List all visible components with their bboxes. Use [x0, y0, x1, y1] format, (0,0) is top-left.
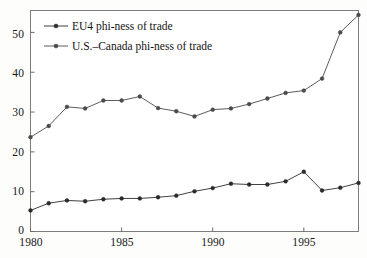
- data-point-1982: [65, 199, 69, 203]
- data-point-1996: [320, 77, 324, 81]
- legend-sample-marker-1: [54, 44, 58, 48]
- data-point-1985: [120, 197, 124, 201]
- data-point-1992: [247, 183, 251, 187]
- data-point-1986: [138, 95, 142, 99]
- legend-label-us-canada: U.S.–Canada phi-ness of trade: [72, 40, 212, 52]
- data-point-1986: [138, 197, 142, 201]
- ytick-label-10: 10: [2, 185, 24, 197]
- data-point-1987: [156, 195, 160, 199]
- chart-figure: 50 40 30 20 10 0 1980 1985 1990 1995 EU4…: [0, 0, 367, 258]
- data-point-1998: [357, 181, 361, 185]
- data-point-1995: [302, 89, 306, 93]
- xtick-label-1990: 1990: [192, 236, 234, 248]
- ytick-label-30: 30: [2, 106, 24, 118]
- data-point-1990: [211, 186, 215, 190]
- data-point-1993: [265, 183, 269, 187]
- ytick-label-0: 0: [2, 224, 24, 236]
- data-point-1980: [29, 209, 33, 213]
- data-point-1981: [47, 201, 51, 205]
- legend-sample-marker-0: [54, 24, 58, 28]
- chart-plot-area: [0, 0, 367, 258]
- data-point-1991: [229, 107, 233, 111]
- xtick-label-1985: 1985: [101, 236, 143, 248]
- xtick-label-1995: 1995: [283, 236, 325, 248]
- data-point-1989: [193, 189, 197, 193]
- xtick-label-1980: 1980: [10, 236, 52, 248]
- data-point-1994: [284, 91, 288, 95]
- data-point-1980: [29, 135, 33, 139]
- data-point-1992: [247, 102, 251, 106]
- ytick-label-50: 50: [2, 28, 24, 40]
- data-point-1990: [211, 108, 215, 112]
- legend-label-eu4: EU4 phi-ness of trade: [72, 20, 173, 32]
- data-point-1996: [320, 189, 324, 193]
- ytick-label-20: 20: [2, 146, 24, 158]
- data-point-1994: [284, 179, 288, 183]
- data-point-1989: [193, 115, 197, 119]
- data-point-1987: [156, 106, 160, 110]
- data-point-1997: [338, 186, 342, 190]
- data-point-1982: [65, 105, 69, 109]
- data-point-1985: [120, 99, 124, 103]
- data-point-1988: [174, 109, 178, 113]
- data-point-1997: [338, 31, 342, 35]
- data-point-1984: [101, 197, 105, 201]
- ytick-label-40: 40: [2, 67, 24, 79]
- data-point-1995: [302, 170, 306, 174]
- data-point-1983: [83, 199, 87, 203]
- data-point-1984: [101, 99, 105, 103]
- data-point-1983: [83, 107, 87, 111]
- data-point-1993: [265, 97, 269, 101]
- data-point-1998: [357, 13, 361, 17]
- data-point-1981: [47, 124, 51, 128]
- data-point-1988: [174, 194, 178, 198]
- data-point-1991: [229, 182, 233, 186]
